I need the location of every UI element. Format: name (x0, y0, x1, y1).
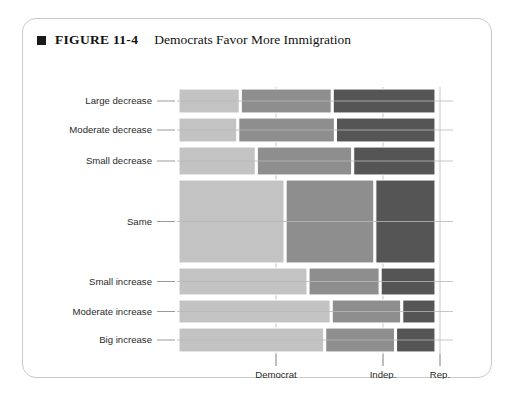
column-label-0: Democrat (255, 369, 297, 379)
row-label-2: Small decrease (86, 155, 152, 166)
column-label-1: Indep. (370, 369, 397, 379)
figure-card: FIGURE 11-4 Democrats Favor More Immigra… (22, 18, 492, 378)
row-label-6: Big increase (99, 334, 152, 345)
row-label-5: Moderate increase (73, 306, 152, 317)
mosaic-chart: Large decreaseModerate decreaseSmall dec… (23, 19, 493, 379)
column-label-2: Rep. (430, 369, 450, 379)
row-label-1: Moderate decrease (69, 124, 152, 135)
row-label-0: Large decrease (85, 95, 152, 106)
row-label-3: Same (127, 216, 152, 227)
row-label-4: Small increase (89, 276, 152, 287)
mosaic-chart-svg: Large decreaseModerate decreaseSmall dec… (23, 19, 493, 379)
